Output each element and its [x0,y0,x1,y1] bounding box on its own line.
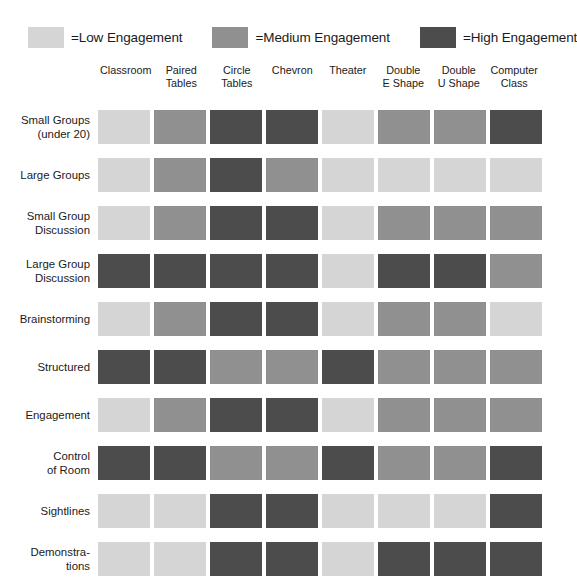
row-label-line: Control [0,449,90,463]
heatmap-cell [490,446,542,480]
column-header: DoubleU Shape [431,64,487,102]
heatmap-cell [490,158,542,192]
heatmap-cell [98,542,150,576]
legend-label-high: =High Engagement [463,30,577,45]
matrix-row: Engagement [0,391,544,439]
heatmap-cell [210,446,262,480]
heatmap-cell [210,302,262,336]
heatmap-cell [378,494,430,528]
row-label-line: Large Group [0,257,90,271]
heatmap-cell [378,542,430,576]
heatmap-cell [378,254,430,288]
matrix-row: Controlof Room [0,439,544,487]
heatmap-cell [98,110,150,144]
column-header: PairedTables [154,64,210,102]
heatmap-cell [154,158,206,192]
column-header-line: Double [438,64,480,77]
heatmap-cell [322,350,374,384]
heatmap-cell [154,494,206,528]
column-header: Classroom [98,64,154,102]
heatmap-cell [322,110,374,144]
legend-label-medium: =Medium Engagement [255,30,389,45]
heatmap-cell [210,110,262,144]
column-header-line: Computer [491,64,538,77]
row-label: Large GroupDiscussion [0,257,98,285]
heatmap-cell [322,542,374,576]
heatmap-cell [378,110,430,144]
row-label: Structured [0,360,98,374]
heatmap-cell [154,350,206,384]
heatmap-cell [210,542,262,576]
heatmap-cell [490,206,542,240]
matrix-row-cells [98,542,544,576]
heatmap-cell [154,254,206,288]
column-header-line: Tables [166,77,197,90]
heatmap-cell [266,398,318,432]
heatmap-cell [154,398,206,432]
heatmap-cell [434,158,486,192]
row-label-line: Engagement [0,408,90,422]
column-header-line: Double [383,64,424,77]
heatmap-cell [210,254,262,288]
matrix-row: Brainstorming [0,295,544,343]
legend-swatch-high [420,27,456,48]
row-label-line: of Room [0,463,90,477]
heatmap-cell [98,158,150,192]
heatmap-cell [434,302,486,336]
heatmap-cell [490,350,542,384]
row-label: Controlof Room [0,449,98,477]
heatmap-cell [154,542,206,576]
matrix-row-cells [98,494,544,528]
row-label-line: tions [0,559,90,573]
column-header-line: Circle [221,64,252,77]
column-header-row: ClassroomPairedTablesCircleTablesChevron… [98,64,542,102]
heatmap-cell [266,110,318,144]
matrix-row-cells [98,350,544,384]
legend: =Low Engagement=Medium Engagement=High E… [28,22,528,52]
row-label: Large Groups [0,168,98,182]
heatmap-cell [490,302,542,336]
heatmap-cell [378,446,430,480]
matrix-row: Large GroupDiscussion [0,247,544,295]
matrix-row: Large Groups [0,151,544,199]
heatmap-matrix: Small Groups(under 20)Large GroupsSmall … [0,103,544,583]
row-label: Sightlines [0,504,98,518]
column-header-line: Class [491,77,538,90]
heatmap-cell [210,494,262,528]
row-label-line: Small Groups [0,113,90,127]
heatmap-cell [378,158,430,192]
row-label-line: Large Groups [0,168,90,182]
heatmap-cell [322,206,374,240]
column-header-line: Paired [166,64,197,77]
row-label-line: Structured [0,360,90,374]
heatmap-cell [322,302,374,336]
heatmap-cell [434,110,486,144]
row-label: Small GroupDiscussion [0,209,98,237]
column-header-line: E Shape [383,77,424,90]
row-label-line: Discussion [0,271,90,285]
heatmap-cell [378,302,430,336]
heatmap-cell [434,254,486,288]
row-label-line: Small Group [0,209,90,223]
heatmap-cell [98,206,150,240]
heatmap-cell [490,398,542,432]
column-header: DoubleE Shape [376,64,432,102]
heatmap-cell [154,446,206,480]
column-header-line: Tables [221,77,252,90]
row-label-line: Discussion [0,223,90,237]
column-header-line: Theater [329,64,366,77]
heatmap-cell [210,350,262,384]
heatmap-cell [98,254,150,288]
matrix-row: Small GroupDiscussion [0,199,544,247]
column-header: CircleTables [209,64,265,102]
row-label: Engagement [0,408,98,422]
row-label: Demonstra-tions [0,545,98,573]
heatmap-cell [266,254,318,288]
heatmap-cell [266,206,318,240]
matrix-row-cells [98,398,544,432]
heatmap-cell [98,302,150,336]
heatmap-cell [490,110,542,144]
legend-swatch-medium [212,27,248,48]
heatmap-cell [266,494,318,528]
